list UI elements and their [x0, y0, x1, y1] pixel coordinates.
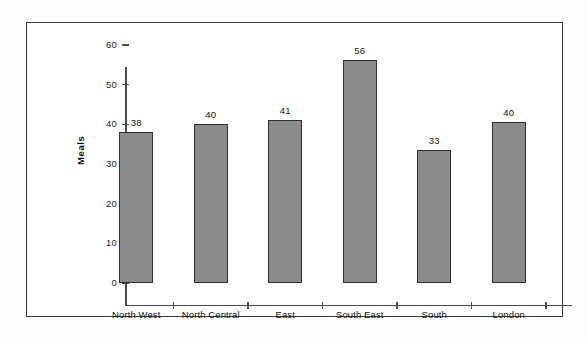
- x-axis-tick: [396, 302, 398, 309]
- bar: [194, 124, 228, 283]
- x-axis-tick: [545, 302, 547, 309]
- y-axis-tick-label: 30: [91, 158, 117, 169]
- bar: [268, 120, 302, 283]
- y-axis-tick-label: 50: [91, 79, 117, 90]
- bar-value-label: 41: [260, 105, 310, 116]
- y-axis-title: Meals: [75, 136, 86, 165]
- y-axis-tick: [122, 44, 129, 46]
- x-axis-category-label: London: [464, 309, 554, 320]
- y-axis-tick-label: 60: [91, 39, 117, 50]
- bar: [119, 132, 153, 283]
- y-axis-tick-label: 20: [91, 198, 117, 209]
- bar: [417, 150, 451, 283]
- bar-value-label: 38: [111, 117, 161, 128]
- bar-value-label: 40: [484, 107, 534, 118]
- bar: [492, 122, 526, 283]
- x-axis-tick: [471, 302, 473, 309]
- x-axis-tick: [322, 302, 324, 309]
- x-axis-line: [125, 305, 572, 307]
- y-axis-tick-label: 10: [91, 237, 117, 248]
- x-axis-tick: [173, 302, 175, 309]
- chart-frame: Meals 0102030405060 384041563340 North W…: [26, 22, 563, 317]
- chart-page: Meals 0102030405060 384041563340 North W…: [0, 0, 587, 338]
- x-axis-tick: [247, 302, 249, 309]
- y-axis-tick: [122, 84, 129, 86]
- bar-value-label: 40: [186, 109, 236, 120]
- bar-value-label: 33: [409, 135, 459, 146]
- bar-value-label: 56: [335, 45, 385, 56]
- y-axis-tick-label: 0: [91, 277, 117, 288]
- bar: [343, 60, 377, 283]
